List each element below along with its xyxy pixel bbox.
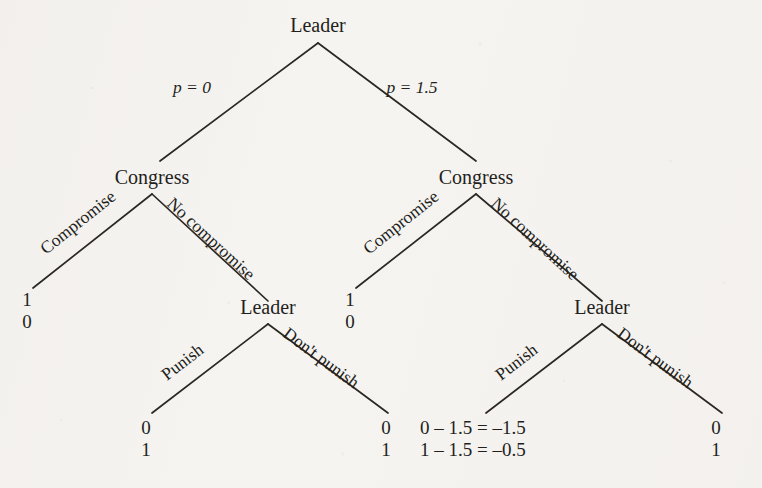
- branch-label-root-left: p = 0: [171, 77, 211, 97]
- payoff-congress-value: 1 – 1.5 = –0.5: [420, 439, 526, 460]
- payoff-leader-value: 1: [22, 289, 32, 310]
- payoff-node: 0 – 1.5 = –1.5 1 – 1.5 = –0.5: [420, 417, 526, 460]
- branch-label-root-right: p = 1.5: [384, 77, 437, 97]
- edge-root-left: [160, 43, 318, 161]
- payoff-congress-value: 1: [141, 439, 151, 460]
- game-tree-svg: Leader Congress Congress Leader Leader p…: [0, 0, 762, 488]
- game-tree-figure: Leader Congress Congress Leader Leader p…: [0, 0, 762, 488]
- payoff-leader-value: 0 – 1.5 = –1.5: [420, 417, 526, 438]
- payoff-leader-value: 0: [381, 417, 391, 438]
- branch-label-congress-right-compromise: Compromise: [359, 186, 442, 258]
- payoff-node: 1 0: [345, 289, 355, 332]
- branch-label-leader-right-dont-punish: Don't punish: [614, 323, 698, 392]
- payoff-node: 0 1: [711, 417, 721, 460]
- node-label-leader-left: Leader: [240, 296, 296, 318]
- payoff-congress-value: 0: [345, 311, 355, 332]
- payoff-leader-value: 0: [711, 417, 721, 438]
- node-label-congress-right: Congress: [439, 166, 514, 189]
- payoff-node: 0 1: [381, 417, 391, 460]
- edge-root-right: [318, 43, 476, 161]
- payoff-leader-value: 1: [345, 289, 355, 310]
- payoff-node: 0 1: [141, 417, 151, 460]
- payoff-node: 1 0: [22, 289, 32, 332]
- payoff-congress-value: 0: [22, 311, 32, 332]
- node-label-leader-right: Leader: [574, 296, 630, 318]
- payoff-congress-value: 1: [381, 439, 391, 460]
- node-label-congress-left: Congress: [115, 166, 190, 189]
- branch-label-congress-left-no-compromise: No compromise: [163, 193, 259, 284]
- payoff-leader-value: 0: [141, 417, 151, 438]
- payoff-congress-value: 1: [711, 439, 721, 460]
- branch-label-leader-left-punish: Punish: [157, 339, 207, 384]
- branch-label-leader-left-dont-punish: Don't punish: [280, 323, 364, 392]
- branch-label-leader-right-punish: Punish: [491, 339, 541, 384]
- branch-label-congress-left-compromise: Compromise: [36, 186, 119, 258]
- branch-label-congress-right-no-compromise: No compromise: [487, 193, 583, 284]
- node-label-root-leader: Leader: [290, 14, 346, 36]
